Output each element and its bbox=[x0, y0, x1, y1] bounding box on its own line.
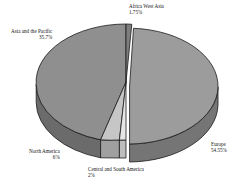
pie-label-value-central-and-south-america: 2% bbox=[88, 172, 144, 178]
pie-top-faces bbox=[36, 24, 218, 144]
pie-label-value-asia-and-the-pacific: 35.7% bbox=[11, 34, 52, 40]
pie-label-europe: Europe 54.55% bbox=[211, 141, 227, 153]
pie-label-asia-and-the-pacific: Asia and the Pacific 35.7% bbox=[11, 28, 52, 40]
pie-side-north-america bbox=[101, 140, 120, 158]
pie-label-name-central-and-south-america: Central and South America bbox=[88, 166, 144, 172]
pie-label-value-europe: 54.55% bbox=[211, 147, 227, 153]
pie-label-north-america: North America 6% bbox=[29, 148, 60, 160]
pie-chart-figure: Africa West Asia 1.75% Asia and the Paci… bbox=[0, 0, 250, 190]
pie-label-africa-west-asia: Africa West Asia 1.75% bbox=[129, 3, 164, 15]
pie-label-value-africa-west-asia: 1.75% bbox=[129, 9, 164, 15]
pie-side-central-and-south-america bbox=[119, 140, 126, 158]
pie-label-central-and-south-america: Central and South America 2% bbox=[88, 166, 144, 178]
pie-label-value-north-america: 6% bbox=[29, 154, 60, 160]
